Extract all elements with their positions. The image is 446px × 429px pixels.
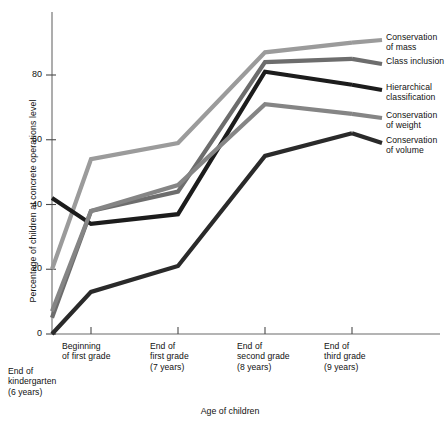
series-group [52, 43, 352, 334]
legend-item-3[interactable]: Conservation of weight [386, 110, 446, 130]
legend-leader-2 [352, 85, 382, 90]
y-tick-label: 40 [20, 199, 42, 209]
y-tick-label: 60 [20, 134, 42, 144]
legend-item-2[interactable]: Hierarchical classification [386, 82, 446, 102]
legend-item-1[interactable]: Class inclusion [386, 56, 446, 66]
chart-container: Percentage of children at concrete opera… [0, 0, 446, 429]
legend-leader-group [352, 40, 382, 143]
legend-item-4[interactable]: Conservation of volume [386, 135, 446, 155]
legend-leader-1 [352, 59, 382, 64]
legend-leader-4 [352, 133, 382, 143]
x-category-label-4: End of third grade (9 years) [324, 341, 404, 372]
legend-leader-0 [352, 40, 382, 43]
y-tick-label: 0 [20, 328, 42, 338]
series-line-2 [52, 72, 352, 224]
series-line-1 [52, 59, 352, 318]
x-tick-group [91, 327, 352, 334]
y-tick-label: 20 [20, 263, 42, 273]
y-tick-group [46, 75, 56, 334]
x-category-label-2: End of first grade (7 years) [150, 341, 228, 372]
legend-leader-3 [352, 114, 382, 118]
x-category-label-1: Beginning of first grade [62, 341, 140, 362]
x-category-label-3: End of second grade (8 years) [237, 341, 323, 372]
y-tick-label: 80 [20, 69, 42, 79]
x-category-label-0: End of kindergarten (6 years) [8, 366, 86, 397]
x-axis-title: Age of children [150, 406, 310, 416]
series-line-3 [52, 104, 352, 311]
legend-item-0[interactable]: Conservation of mass [386, 32, 446, 52]
